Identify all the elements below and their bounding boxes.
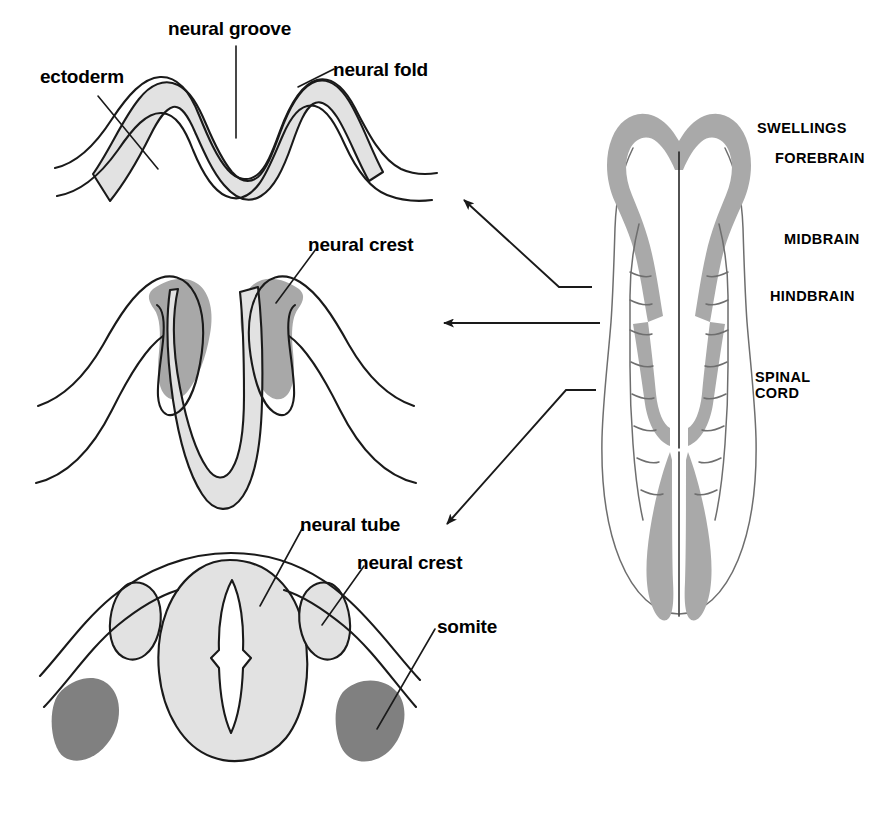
- caudal-neural-groove-right: [685, 452, 712, 621]
- label-forebrain: FOREBRAIN: [775, 150, 865, 166]
- somite-left: [52, 678, 119, 761]
- neural-plate-shading-top: [93, 81, 383, 201]
- label-neural-crest-bottom: neural crest: [357, 552, 462, 574]
- label-neural-crest-middle: neural crest: [308, 234, 413, 256]
- somite-leader: [377, 629, 435, 729]
- label-somite: somite: [437, 616, 497, 638]
- panel-right-dorsal-view: [602, 114, 756, 621]
- label-ectoderm: ectoderm: [40, 66, 124, 88]
- label-swellings: SWELLINGS: [757, 120, 847, 136]
- neural-fold-right-inner-middle: [289, 336, 416, 483]
- label-neural-fold: neural fold: [333, 59, 428, 81]
- label-hindbrain: HINDBRAIN: [770, 288, 855, 304]
- label-spinal-cord-line2: CORD: [755, 385, 799, 401]
- arrow-to-bottom-panel: [447, 390, 596, 524]
- connector-arrows: [444, 200, 600, 524]
- caudal-neural-groove-left: [646, 452, 673, 621]
- neural-crest-left-bottom: [110, 582, 161, 659]
- panel-middle-neural-folds: [36, 249, 416, 509]
- neural-fold-left-inner-middle: [36, 336, 163, 483]
- label-midbrain: MIDBRAIN: [784, 231, 860, 247]
- somite-right: [336, 680, 405, 761]
- label-neural-groove: neural groove: [168, 18, 291, 40]
- arrow-to-top-panel: [464, 200, 592, 287]
- label-spinal-cord-line1: SPINAL: [755, 369, 811, 385]
- panel-top-neural-groove: [55, 77, 437, 201]
- label-neural-tube: neural tube: [300, 514, 400, 536]
